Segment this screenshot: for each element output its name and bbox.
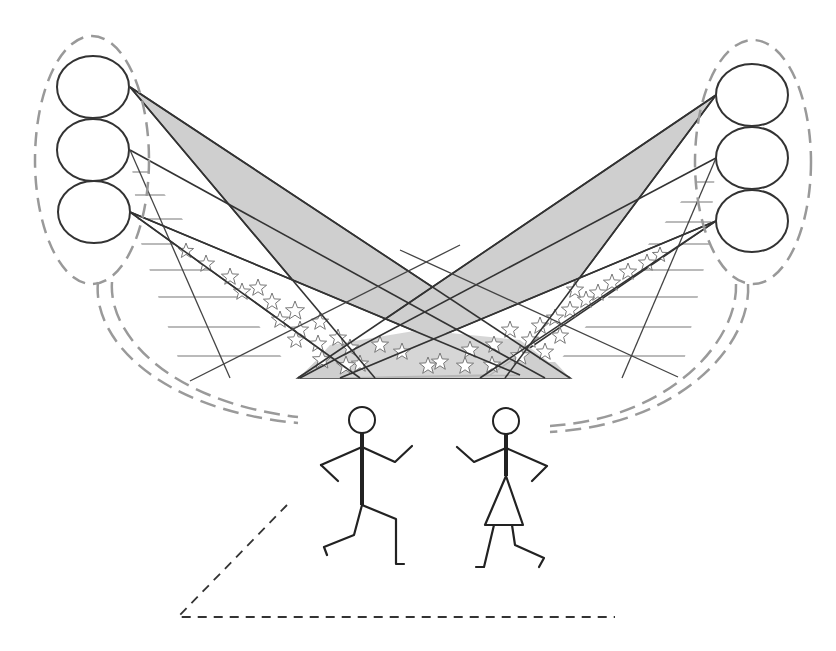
- left-lamp-2: [57, 119, 129, 181]
- stage-lighting-diagram: [0, 0, 836, 651]
- right-lamp-3: [716, 190, 788, 252]
- right-lamp-2: [716, 127, 788, 189]
- left-lamp-cluster: [35, 36, 149, 284]
- female-dancer-head: [493, 408, 519, 434]
- right-lamp-1: [716, 64, 788, 126]
- female-dancer: [457, 408, 547, 567]
- male-dancer: [321, 407, 412, 564]
- left-lamp-3: [58, 181, 130, 243]
- male-dancer-head: [349, 407, 375, 433]
- left-lamp-1: [57, 56, 129, 118]
- right-lamp-cluster: [695, 40, 811, 284]
